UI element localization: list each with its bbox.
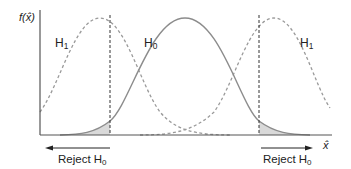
reject-left-label: Reject H0 — [58, 154, 107, 167]
arrow-left-icon — [45, 146, 53, 151]
arrow-right-icon — [305, 146, 313, 151]
h1-right-label: H1 — [300, 37, 313, 50]
x-axis-label: x̂ — [323, 140, 329, 151]
reject-right-text: Reject H — [263, 153, 307, 165]
hypothesis-test-diagram — [0, 0, 351, 169]
y-label-f: f( — [19, 11, 26, 23]
h0-label: H0 — [144, 37, 157, 50]
y-axis-label: f(x̂) — [19, 12, 35, 23]
reject-right-sub: 0 — [307, 158, 311, 167]
h1-left-text: H — [55, 36, 64, 50]
h1-right-text: H — [300, 36, 309, 50]
reject-left-sub: 0 — [102, 158, 106, 167]
h1-left-label: H1 — [55, 37, 68, 50]
h0-curve — [60, 18, 310, 135]
reject-left-text: Reject H — [58, 153, 102, 165]
reject-right-label: Reject H0 — [263, 154, 312, 167]
h1-right-sub: 1 — [309, 41, 314, 51]
h0-sub: 0 — [153, 41, 158, 51]
h0-text: H — [144, 36, 153, 50]
h1-left-sub: 1 — [64, 41, 69, 51]
y-label-close: ) — [31, 11, 35, 23]
